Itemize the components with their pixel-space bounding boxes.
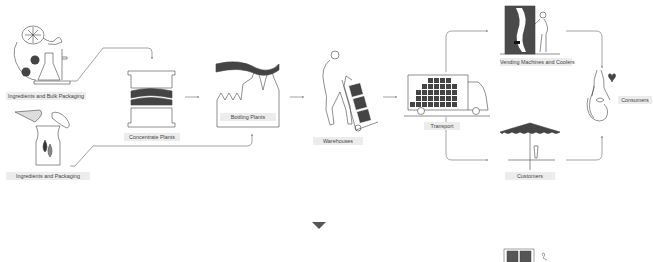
supply-chain-diagram xyxy=(0,0,653,262)
concentrate-plant-icon xyxy=(128,71,175,127)
edge-customers-to-consumers xyxy=(566,137,602,160)
label-vending-machines: Vending Machines and Coolers xyxy=(500,58,572,66)
warehouse-worker-icon xyxy=(323,51,378,131)
ingredients-bulk-icon xyxy=(14,26,70,84)
label-warehouses: Warehouses xyxy=(313,137,363,145)
label-transport: Transport xyxy=(424,122,460,130)
label-ingredients-packaging: Ingredients and Packaging xyxy=(6,172,90,180)
customers-umbrella-icon xyxy=(500,123,560,170)
edge-transport-to-vending xyxy=(446,31,487,72)
down-triangle-icon[interactable] xyxy=(312,222,326,229)
label-customers: Customers xyxy=(505,172,555,180)
label-concentrate-plants: Concentrate Plants xyxy=(124,133,180,141)
label-consumers: Consumers xyxy=(618,96,652,104)
vending-machine-icon xyxy=(500,6,560,54)
label-ingredients-bulk: Ingredients and Bulk Packaging xyxy=(6,92,86,100)
transport-truck-icon xyxy=(404,75,490,116)
consumers-hand-bottle-icon xyxy=(587,70,616,121)
label-bottling-plants: Bottling Plants xyxy=(220,113,276,121)
edge-bulk-to-concentrate xyxy=(70,48,152,81)
ingredients-packaging-icon xyxy=(15,110,69,165)
vending-machine-partial-icon xyxy=(504,249,547,262)
